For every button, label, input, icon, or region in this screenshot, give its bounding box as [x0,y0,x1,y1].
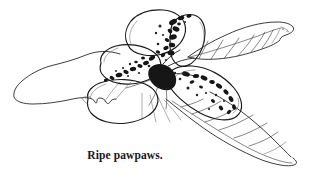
figure-root: Ripe pawpaws. [0,0,314,181]
figure-caption: Ripe pawpaws. [0,149,250,161]
